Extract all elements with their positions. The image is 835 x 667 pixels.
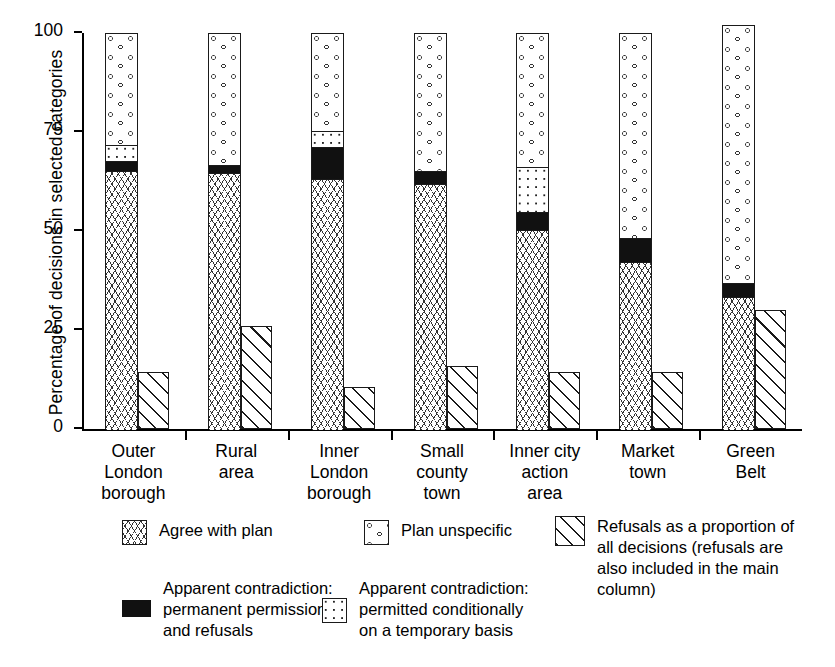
segment-dots-1 [106, 145, 137, 161]
y-tick-50: 50 [74, 229, 82, 231]
main-column-3 [311, 33, 344, 429]
segment-agree-1 [106, 171, 137, 430]
main-column-5 [516, 33, 549, 429]
x-category-label-4: Small county town [391, 441, 494, 504]
segment-unspecific-3 [312, 34, 343, 131]
y-tick-label-50: 50 [44, 218, 63, 239]
x-tick-3 [391, 430, 393, 440]
x-category-label-7: Green Belt [699, 441, 802, 483]
x-category-label-6: Market town [596, 441, 699, 483]
main-column-7 [722, 25, 755, 429]
legend-item-5[interactable]: Apparent contradiction: permitted condit… [322, 578, 529, 641]
segment-agree-6 [620, 262, 651, 430]
legend-item-3[interactable]: Refusals as a proportion of all decision… [555, 516, 794, 600]
segment-agree-4 [415, 184, 446, 430]
segment-unspecific-7 [723, 26, 754, 283]
legend-swatch-fine-dots-icon [322, 598, 347, 623]
refusals-column-7 [755, 310, 786, 429]
segment-agree-5 [517, 230, 548, 430]
legend-swatch-open-circles-icon [364, 520, 389, 545]
segment-unspecific-2 [209, 34, 240, 165]
y-tick-label-75: 75 [44, 119, 63, 140]
x-category-label-5: Inner city action area [493, 441, 596, 504]
x-category-label-3: Inner London borough [288, 441, 391, 504]
chart-legend: Agree with planPlan unspecificRefusals a… [0, 520, 835, 660]
y-tick-label-25: 25 [44, 317, 63, 338]
segment-black-1 [106, 161, 137, 171]
refusals-column-4 [447, 366, 478, 429]
y-tick-label-0: 0 [53, 416, 63, 437]
refusals-column-6 [652, 372, 683, 429]
legend-item-2[interactable]: Plan unspecific [364, 520, 512, 545]
legend-label-4: Apparent contradiction: permanent permis… [163, 578, 335, 641]
y-tick-label-100: 100 [34, 20, 63, 41]
plot-area: 0255075100 [82, 23, 802, 431]
segment-black-3 [312, 147, 343, 179]
segment-unspecific-5 [517, 34, 548, 167]
segment-agree-7 [723, 297, 754, 430]
segment-dots-5 [517, 167, 548, 213]
y-tick-0: 0 [74, 427, 82, 429]
refusals-column-1 [138, 372, 169, 429]
refusals-column-5 [549, 372, 580, 429]
legend-label-1: Agree with plan [159, 520, 273, 541]
refusals-column-2 [241, 326, 272, 429]
y-tick-75: 75 [74, 130, 82, 132]
y-tick-25: 25 [74, 328, 82, 330]
x-tick-4 [493, 430, 495, 440]
segment-unspecific-6 [620, 34, 651, 238]
segment-unspecific-4 [415, 34, 446, 171]
legend-label-2: Plan unspecific [401, 520, 512, 541]
refusals-column-3 [344, 387, 375, 429]
x-tick-2 [288, 430, 290, 440]
main-column-2 [208, 33, 241, 429]
x-tick-5 [596, 430, 598, 440]
segment-agree-3 [312, 179, 343, 430]
legend-swatch-arrows-icon [122, 520, 147, 545]
segment-black-6 [620, 238, 651, 262]
x-tick-6 [699, 430, 701, 440]
x-category-label-1: Outer London borough [82, 441, 185, 504]
y-tick-100: 100 [74, 31, 82, 33]
segment-agree-2 [209, 173, 240, 430]
legend-label-3: Refusals as a proportion of all decision… [597, 516, 794, 600]
legend-item-1[interactable]: Agree with plan [122, 520, 273, 545]
legend-swatch-diagonal-hatch-icon [555, 516, 585, 546]
legend-item-4[interactable]: Apparent contradiction: permanent permis… [122, 578, 335, 641]
main-column-4 [414, 33, 447, 429]
segment-dots-3 [312, 131, 343, 147]
segment-black-7 [723, 283, 754, 297]
segment-unspecific-1 [106, 34, 137, 145]
legend-label-5: Apparent contradiction: permitted condit… [359, 578, 529, 641]
x-tick-1 [185, 430, 187, 440]
segment-black-5 [517, 212, 548, 230]
segment-black-2 [209, 165, 240, 173]
x-category-label-2: Rural area [185, 441, 288, 483]
chart-figure: Percentage of decisions in selected cate… [0, 0, 835, 667]
legend-swatch-solid-black-icon [122, 600, 151, 617]
main-column-1 [105, 33, 138, 429]
y-axis-line [82, 33, 84, 431]
main-column-6 [619, 33, 652, 429]
segment-black-4 [415, 171, 446, 185]
